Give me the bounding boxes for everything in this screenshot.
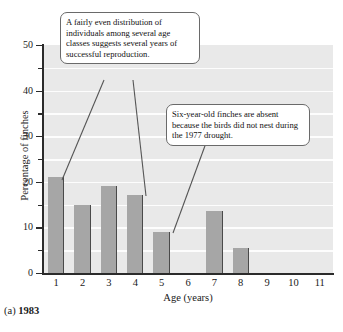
y-tick-label: 0 bbox=[28, 268, 33, 278]
gridline bbox=[43, 182, 333, 184]
gridline bbox=[43, 68, 333, 70]
bar bbox=[127, 195, 143, 273]
bar bbox=[101, 186, 117, 273]
bar bbox=[48, 177, 64, 273]
y-tick-minor bbox=[38, 205, 43, 206]
x-tick-label: 5 bbox=[152, 277, 172, 288]
y-tick-major bbox=[36, 273, 43, 274]
gridline bbox=[43, 91, 333, 93]
x-tick-label: 11 bbox=[310, 277, 330, 288]
gridline bbox=[43, 159, 333, 161]
y-tick-minor bbox=[38, 68, 43, 69]
caption-label: (a) bbox=[4, 305, 16, 316]
y-tick-major bbox=[36, 91, 43, 92]
bar bbox=[233, 248, 249, 273]
y-tick-label: 50 bbox=[23, 40, 33, 50]
x-tick-label: 9 bbox=[257, 277, 277, 288]
callout-six-year-old-absent: Six-year-old finches are absent because … bbox=[166, 104, 310, 146]
x-axis-title: Age (years) bbox=[43, 292, 333, 303]
y-tick-minor bbox=[38, 250, 43, 251]
y-tick-minor bbox=[38, 159, 43, 160]
caption-year: 1983 bbox=[18, 305, 39, 316]
plot-area bbox=[43, 45, 333, 273]
bar bbox=[74, 205, 90, 273]
y-tick-major bbox=[36, 45, 43, 46]
x-tick-label: 7 bbox=[204, 277, 224, 288]
x-tick-label: 4 bbox=[125, 277, 145, 288]
figure-1983-finch-age-distribution: 01020304050 Percentage of finches Age (y… bbox=[0, 0, 343, 332]
x-tick-label: 2 bbox=[73, 277, 93, 288]
y-axis-title: Percentage of finches bbox=[19, 86, 30, 226]
figure-caption: (a) 1983 bbox=[4, 305, 39, 316]
x-tick-label: 3 bbox=[99, 277, 119, 288]
y-tick-minor bbox=[38, 113, 43, 114]
bar bbox=[206, 211, 222, 273]
x-tick-label: 10 bbox=[283, 277, 303, 288]
y-tick-major bbox=[36, 227, 43, 228]
x-tick-label: 6 bbox=[178, 277, 198, 288]
y-tick-major bbox=[36, 182, 43, 183]
x-axis-line bbox=[42, 273, 334, 275]
y-tick-major bbox=[36, 136, 43, 137]
callout-even-distribution: A fairly even distribution of individual… bbox=[60, 12, 200, 64]
x-tick-label: 1 bbox=[46, 277, 66, 288]
x-tick-label: 8 bbox=[231, 277, 251, 288]
bar bbox=[153, 232, 169, 273]
